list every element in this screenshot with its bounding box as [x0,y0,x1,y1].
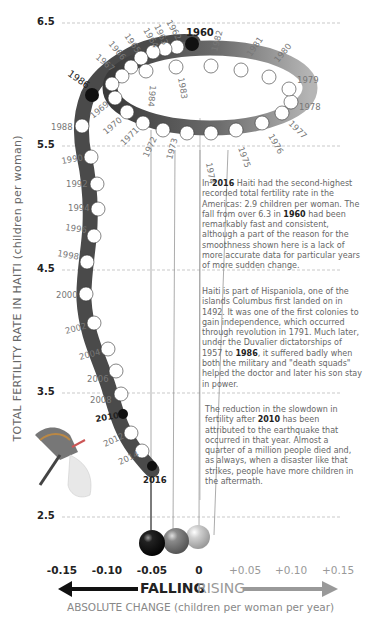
falling-label: FALLING [140,580,205,596]
rising-label: RISING [197,580,245,596]
year-label: 2008 [90,395,112,405]
annotation-earthquake: The reduction in the slowdown in fertili… [205,405,355,487]
year-label: 1988 [51,122,73,132]
year-label: 1984 [146,85,158,107]
year-label: 1971 [118,125,140,147]
year-label: 1986 [66,68,92,91]
year-label: 2016 [143,475,167,485]
falling-arrow [58,581,138,597]
x-tick: -0.10 [92,564,122,576]
year-label: 2012 [102,431,126,449]
year-label: 1972 [141,135,159,159]
x-tick: -0.15 [47,564,77,576]
ball-rising-light [186,525,210,549]
year-label: 1977 [287,118,309,140]
year-label: 1996 [65,222,88,235]
year-label: 1994 [68,203,90,213]
year-label: 1960 [186,27,214,38]
dot-2010 [118,409,128,419]
x-axis-title: ABSOLUTE CHANGE (children per woman per … [67,601,334,613]
y-axis-title: TOTAL FERTILITY RATE IN HAITI (children … [11,172,24,442]
year-label: 1973 [164,137,179,160]
year-label: 1992 [66,179,88,189]
year-label: 1975 [236,145,253,169]
year-label: 2006 [87,374,109,384]
x-tick: 0 [195,564,202,576]
dot-1960 [185,37,199,51]
x-tick: +0.05 [229,564,261,576]
rising-arrow [243,581,338,597]
y-tick: 3.5 [37,386,55,397]
year-label: 1979 [297,75,319,85]
year-label: 1976 [266,132,285,156]
x-tick: +0.10 [275,564,307,576]
stork-illustration [35,428,91,497]
annotation-2016: In 2016 Haiti had the second-highest rec… [202,179,362,272]
y-tick: 2.5 [37,510,55,521]
year-label: 2000 [56,290,78,300]
y-tick: 4.5 [37,263,55,274]
y-tick: 6.5 [37,16,55,27]
ball-falling-dark [139,530,165,556]
dot-1986 [85,88,99,102]
year-label: 1983 [176,77,190,100]
year-label: 1998 [57,248,80,262]
year-label: 1970 [101,115,124,137]
y-tick: 5.5 [37,139,55,150]
x-tick: -0.05 [137,564,167,576]
dot-2016 [147,461,157,471]
year-label: 1978 [299,102,321,112]
x-tick: +0.15 [322,564,354,576]
ball-rising-mid [163,528,189,554]
annotation-hispaniola: Haiti is part of Hispaniola, one of the … [202,287,364,390]
